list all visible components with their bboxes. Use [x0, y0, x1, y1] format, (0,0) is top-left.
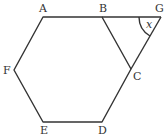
label-b: B	[99, 2, 107, 15]
angle-label-x: x	[146, 18, 153, 31]
label-a: A	[38, 2, 48, 15]
label-g: G	[155, 2, 164, 15]
label-c: C	[133, 70, 141, 83]
label-f: F	[3, 64, 11, 77]
hexagon-diagram: A B G C D E F x	[0, 0, 166, 136]
hexagon-abcdef	[14, 17, 131, 122]
label-e: E	[40, 124, 48, 136]
label-d: D	[98, 124, 107, 136]
